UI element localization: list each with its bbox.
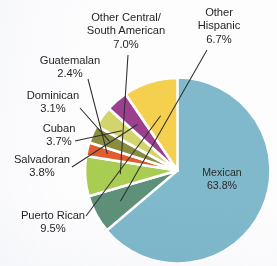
- slice-label-other-central-south-american: Other Central/ South American 7.0%: [72, 11, 180, 51]
- slice-label-dominican-name: Dominican: [27, 89, 79, 101]
- slice-pct-dominican: 3.1%: [14, 102, 92, 115]
- slice-label-guatemalan-name: Guatemalan: [40, 54, 100, 66]
- slice-label-salvadoran: Salvadoran 3.8%: [5, 153, 79, 180]
- slice-pct-guatemalan: 2.4%: [30, 67, 110, 80]
- slice-pct-other-central-south-american: 7.0%: [72, 38, 180, 51]
- slice-pct-mexican: 63.8%: [207, 179, 237, 191]
- slice-label-other-hispanic-line2: Hispanic: [198, 19, 241, 31]
- slice-label-mexican-name: Mexican: [202, 166, 241, 178]
- pie-chart: Other Hispanic 6.7% Other Central/ South…: [0, 0, 277, 266]
- slice-label-other-hispanic: Other Hispanic 6.7%: [188, 6, 250, 46]
- slice-label-other-hispanic-line1: Other: [205, 6, 233, 18]
- slice-label-salvadoran-name: Salvadoran: [14, 153, 70, 165]
- slice-pct-cuban: 3.7%: [32, 135, 86, 148]
- slice-label-puerto-rican: Puerto Rican 9.5%: [10, 209, 96, 236]
- slice-label-dominican: Dominican 3.1%: [14, 89, 92, 116]
- slice-pct-salvadoran: 3.8%: [5, 166, 79, 179]
- slice-label-other-central-line2: South American: [87, 24, 165, 36]
- slice-pct-puerto-rican: 9.5%: [10, 222, 96, 235]
- slice-label-puerto-rican-name: Puerto Rican: [21, 209, 85, 221]
- slice-label-cuban-name: Cuban: [43, 122, 76, 134]
- slice-label-other-central-line1: Other Central/: [91, 11, 161, 23]
- slice-label-mexican: Mexican 63.8%: [187, 166, 257, 192]
- slice-pct-other-hispanic: 6.7%: [188, 33, 250, 46]
- slice-label-guatemalan: Guatemalan 2.4%: [30, 54, 110, 81]
- slice-label-cuban: Cuban 3.7%: [32, 122, 86, 149]
